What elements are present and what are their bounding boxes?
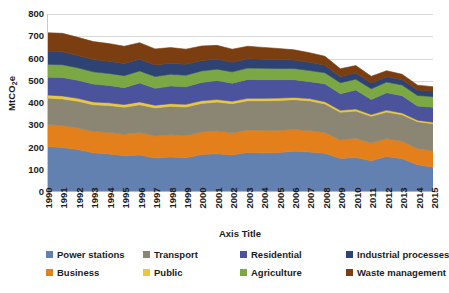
legend-item-label: Power stations bbox=[57, 249, 125, 260]
y-axis-tick-labels: 8007006005004003002001000 bbox=[18, 0, 44, 193]
y-axis-title-text: MtCO bbox=[6, 85, 17, 111]
x-axis-tick-label: 2000 bbox=[197, 182, 208, 214]
x-axis-tick-label: 2004 bbox=[259, 182, 270, 214]
x-axis-tick-label: 1995 bbox=[120, 182, 131, 214]
x-axis-tick-label: 1994 bbox=[105, 182, 116, 214]
chart-legend: Power stationsBusinessTransportPublicRes… bbox=[46, 249, 431, 289]
y-axis-tick-label: 800 bbox=[18, 9, 44, 19]
legend-item-label: Industrial processes bbox=[357, 249, 449, 260]
x-axis-title: Axis Title bbox=[47, 228, 433, 239]
legend-item-industrial-processes[interactable]: Industrial processes bbox=[346, 249, 449, 260]
legend-item-label: Residential bbox=[251, 249, 302, 260]
legend-item-agriculture[interactable]: Agriculture bbox=[240, 267, 302, 278]
x-axis-tick-label: 1993 bbox=[89, 182, 100, 214]
x-axis-tick-label: 1992 bbox=[74, 182, 85, 214]
x-axis-tick-label: 1999 bbox=[182, 182, 193, 214]
legend-item-waste-management[interactable]: Waste management bbox=[346, 267, 446, 278]
legend-item-label: Waste management bbox=[357, 267, 446, 278]
legend-item-public[interactable]: Public bbox=[143, 267, 183, 278]
x-axis-tick-label: 1991 bbox=[58, 182, 69, 214]
x-axis-tick-label: 1998 bbox=[167, 182, 178, 214]
legend-swatch-icon bbox=[346, 269, 353, 276]
legend-swatch-icon bbox=[240, 251, 247, 258]
y-axis-tick-label: 300 bbox=[18, 120, 44, 130]
legend-swatch-icon bbox=[346, 251, 353, 258]
x-axis-tick-label: 2005 bbox=[275, 182, 286, 214]
y-axis-tick-label: 700 bbox=[18, 31, 44, 41]
legend-item-residential[interactable]: Residential bbox=[240, 249, 302, 260]
x-axis-tick-label: 2014 bbox=[414, 182, 425, 214]
y-axis-tick-label: 600 bbox=[18, 54, 44, 64]
legend-swatch-icon bbox=[46, 251, 53, 258]
legend-item-business[interactable]: Business bbox=[46, 267, 99, 278]
legend-item-label: Agriculture bbox=[251, 267, 302, 278]
x-axis-tick-label: 2010 bbox=[352, 182, 363, 214]
x-axis-tick-label: 2009 bbox=[336, 182, 347, 214]
x-axis-tick-label: 2012 bbox=[383, 182, 394, 214]
y-axis-title-subscript: 2 bbox=[11, 81, 18, 85]
legend-item-transport[interactable]: Transport bbox=[143, 249, 198, 260]
y-axis-tick-label: 200 bbox=[18, 143, 44, 153]
legend-swatch-icon bbox=[143, 269, 150, 276]
legend-item-label: Transport bbox=[154, 249, 198, 260]
x-axis-tick-label: 2003 bbox=[244, 182, 255, 214]
area-series-group bbox=[47, 14, 433, 192]
x-axis-tick-label: 1997 bbox=[151, 182, 162, 214]
x-axis-tick-label: 2011 bbox=[367, 182, 378, 214]
y-axis-line bbox=[47, 14, 48, 192]
x-axis-tick-label: 2013 bbox=[398, 182, 409, 214]
legend-item-power-stations[interactable]: Power stations bbox=[46, 249, 125, 260]
x-axis-tick-label: 2002 bbox=[228, 182, 239, 214]
y-axis-title: MtCO2e bbox=[6, 64, 17, 124]
y-axis-tick-label: 400 bbox=[18, 98, 44, 108]
legend-item-label: Public bbox=[154, 267, 183, 278]
legend-swatch-icon bbox=[143, 251, 150, 258]
x-axis-tick-label: 2015 bbox=[429, 182, 440, 214]
legend-swatch-icon bbox=[46, 269, 53, 276]
y-axis-tick-label: 500 bbox=[18, 76, 44, 86]
x-axis-tick-label: 2001 bbox=[213, 182, 224, 214]
x-axis-tick-label: 1996 bbox=[136, 182, 147, 214]
plot-area bbox=[47, 14, 433, 192]
x-axis-tick-labels: 1990199119921993199419951996199719981999… bbox=[47, 194, 433, 226]
x-axis-tick-label: 2007 bbox=[305, 182, 316, 214]
legend-item-label: Business bbox=[57, 267, 99, 278]
legend-swatch-icon bbox=[240, 269, 247, 276]
y-axis-tick-label: 100 bbox=[18, 165, 44, 175]
x-axis-tick-label: 1990 bbox=[43, 182, 54, 214]
x-axis-tick-label: 2008 bbox=[321, 182, 332, 214]
y-axis-tick-label: 0 bbox=[18, 187, 44, 197]
x-axis-tick-label: 2006 bbox=[290, 182, 301, 214]
